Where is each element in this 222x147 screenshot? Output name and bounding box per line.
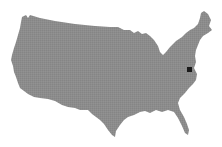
map-container: Contiguous United States — [0, 0, 222, 147]
us-outline — [11, 11, 212, 137]
location-marker — [187, 67, 192, 72]
us-map — [0, 0, 222, 147]
